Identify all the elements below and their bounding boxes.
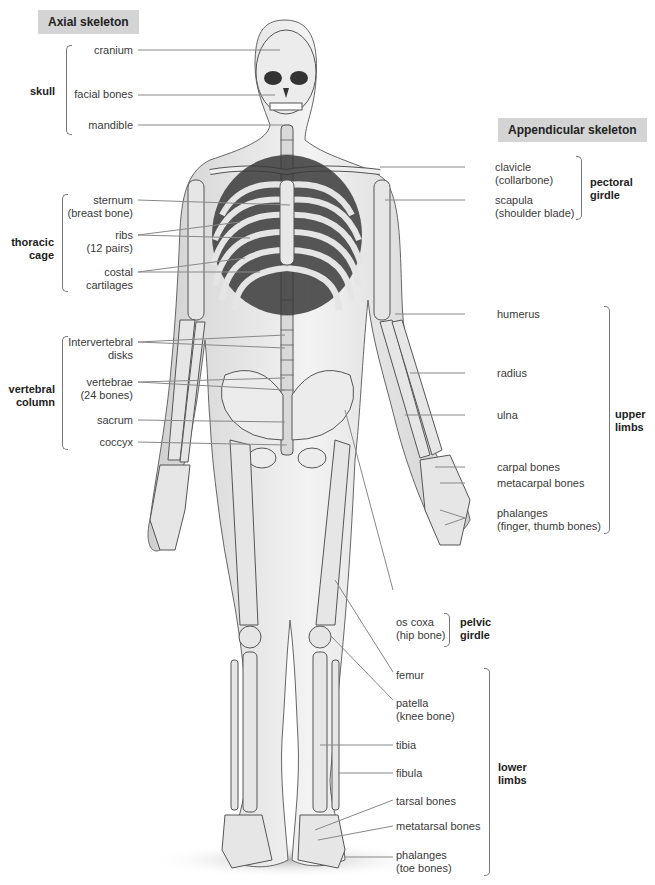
label-tarsal-bones: tarsal bones: [396, 795, 456, 808]
label-carpal-bones: carpal bones: [497, 461, 560, 474]
lower-limbs-bracket: [484, 668, 490, 876]
label-intervertebral-disks: Intervertebraldisks: [60, 336, 133, 362]
label-fibula: fibula: [396, 767, 422, 780]
label-facial-bones: facial bones: [70, 88, 133, 101]
label-cranium: cranium: [75, 44, 133, 57]
label-coccyx: coccyx: [75, 436, 133, 449]
label-os-coxa: os coxa(hip bone): [396, 616, 446, 642]
group-lower-limbs: lowerlimbs: [498, 761, 527, 787]
label-femur: femur: [396, 669, 424, 682]
label-clavicle: clavicle(collarbone): [495, 161, 553, 187]
label-humerus: humerus: [497, 308, 540, 321]
label-ulna: ulna: [497, 409, 518, 422]
label-costal-cartilages: costalcartilages: [65, 266, 133, 292]
upper-limbs-bracket: [604, 306, 610, 534]
group-skull: skull: [30, 85, 55, 98]
label-tibia: tibia: [396, 739, 416, 752]
group-vertebral-column: vertebralcolumn: [2, 383, 55, 409]
label-ribs: ribs(12 pairs): [65, 229, 133, 255]
group-upper-limbs: upperlimbs: [615, 408, 646, 434]
label-metatarsal-bones: metatarsal bones: [396, 820, 480, 833]
label-metacarpal-bones: metacarpal bones: [497, 477, 584, 490]
group-pelvic-girdle: pelvicgirdle: [460, 616, 491, 642]
group-thoracic-cage: thoraciccage: [10, 236, 54, 262]
label-phalanges-foot: phalanges(toe bones): [396, 849, 452, 875]
label-radius: radius: [497, 367, 527, 380]
label-mandible: mandible: [75, 119, 133, 132]
label-phalanges-hand: phalanges(finger, thumb bones): [497, 507, 601, 533]
label-vertebrae: vertebrae(24 bones): [60, 376, 133, 402]
pectoral-bracket: [576, 156, 582, 220]
label-scapula: scapula(shoulder blade): [495, 194, 575, 220]
label-sternum: sternum(breast bone): [65, 194, 133, 220]
label-sacrum: sacrum: [75, 414, 133, 427]
label-patella: patella(knee bone): [396, 697, 455, 723]
group-pectoral-girdle: pectoralgirdle: [590, 176, 633, 202]
